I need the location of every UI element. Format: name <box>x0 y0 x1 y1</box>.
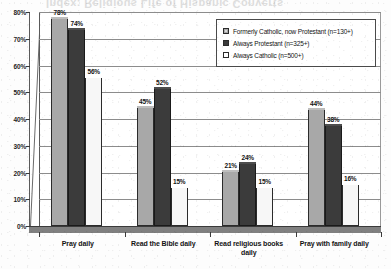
bar-value-label-1-1: 52% <box>156 79 168 86</box>
bar-1-1[interactable]: 52% <box>154 87 171 226</box>
bar-value-label-0-2: 56% <box>88 68 100 75</box>
bar-value-label-3-2: 16% <box>344 175 356 182</box>
legend-label-series-0: Formerly Catholic, now Protestant (n=130… <box>233 28 353 35</box>
y-axis-label-40: 40% <box>14 116 26 123</box>
legend-swatch-icon-series-2 <box>223 52 229 58</box>
bar-value-label-0-0: 78% <box>54 9 66 16</box>
y-tick-mark-80 <box>26 12 30 13</box>
legend-item-always-catholic: Always Catholic (n=500+) <box>223 49 369 61</box>
bar-group-0: 78%74%56% <box>39 12 125 226</box>
scan-showthrough-text: Index: Religious Life of Hispanic Conver… <box>46 0 366 10</box>
y-tick-mark-40 <box>26 119 30 120</box>
legend-label-series-1: Always Protestant (n=325+) <box>233 40 309 47</box>
y-axis-label-30: 30% <box>14 142 26 149</box>
x-tick-1 <box>125 232 126 237</box>
bar-top-cap <box>239 162 256 164</box>
bar-group-1: 45%52%15% <box>125 12 211 226</box>
bar-value-label-3-0: 44% <box>310 100 322 107</box>
legend-item-always-protestant: Always Protestant (n=325+) <box>223 37 369 49</box>
bar-top-cap <box>154 87 171 89</box>
y-axis-label-60: 60% <box>14 62 26 69</box>
x-tick-end <box>381 232 382 237</box>
legend-swatch-icon-series-1 <box>223 40 229 46</box>
bar-1-2[interactable]: 15% <box>171 186 188 226</box>
legend-swatch-icon-series-0 <box>223 28 229 34</box>
bar-value-label-1-0: 45% <box>139 98 151 105</box>
x-axis-category-2: Read religious books daily <box>208 240 290 257</box>
y-axis-label-50: 50% <box>14 89 26 96</box>
bar-0-1[interactable]: 74% <box>68 28 85 226</box>
bar-chart: Index: Religious Life of Hispanic Conver… <box>0 0 391 269</box>
bar-top-cap <box>222 170 239 172</box>
x-tick-3 <box>296 232 297 237</box>
bar-1-0[interactable]: 45% <box>137 106 154 226</box>
bar-3-1[interactable]: 38% <box>325 124 342 226</box>
bar-3-2[interactable]: 16% <box>342 183 359 226</box>
bar-value-label-0-1: 74% <box>71 20 83 27</box>
bar-top-cap <box>308 108 325 110</box>
y-tick-mark-50 <box>26 92 30 93</box>
y-tick-mark-60 <box>26 66 30 67</box>
bar-3-0[interactable]: 44% <box>308 108 325 226</box>
y-axis-label-70: 70% <box>14 35 26 42</box>
legend-label-series-2: Always Catholic (n=500+) <box>233 52 303 59</box>
bar-0-2[interactable]: 56% <box>85 76 102 226</box>
x-tick-2 <box>210 232 211 237</box>
y-tick-mark-70 <box>26 39 30 40</box>
x-axis-category-0: Pray daily <box>37 240 119 249</box>
bar-top-cap <box>256 186 273 188</box>
bar-value-label-3-1: 38% <box>327 116 339 123</box>
bar-top-cap <box>85 76 102 78</box>
x-axis-category-3: Pray with family daily <box>294 240 376 249</box>
bar-0-0[interactable]: 78% <box>51 17 68 226</box>
y-axis-label-20: 20% <box>14 169 26 176</box>
y-tick-mark-30 <box>26 146 30 147</box>
axis-floor-band <box>29 226 381 233</box>
bar-value-label-1-2: 15% <box>173 178 185 185</box>
bar-2-0[interactable]: 21% <box>222 170 239 226</box>
y-axis-label-10: 10% <box>14 196 26 203</box>
bar-top-cap <box>137 106 154 108</box>
y-tick-mark-10 <box>26 199 30 200</box>
y-axis-label-0: 0% <box>17 223 26 230</box>
x-axis-category-1: Read the Bible daily <box>123 240 205 249</box>
bar-top-cap <box>68 28 85 30</box>
bar-value-label-2-1: 24% <box>242 154 254 161</box>
y-axis-label-80: 80% <box>14 9 26 16</box>
bar-top-cap <box>325 124 342 126</box>
bar-value-label-2-2: 15% <box>259 178 271 185</box>
bar-top-cap <box>342 183 359 185</box>
legend-item-formerly-catholic: Formerly Catholic, now Protestant (n=130… <box>223 25 369 37</box>
bar-top-cap <box>171 186 188 188</box>
bar-top-cap <box>51 17 68 19</box>
bar-value-label-2-0: 21% <box>225 162 237 169</box>
chart-legend: Formerly Catholic, now Protestant (n=130… <box>216 19 376 67</box>
y-tick-mark-20 <box>26 173 30 174</box>
x-tick-0 <box>39 232 40 237</box>
bar-2-2[interactable]: 15% <box>256 186 273 226</box>
bar-2-1[interactable]: 24% <box>239 162 256 226</box>
x-axis: Pray dailyRead the Bible dailyRead relig… <box>29 238 381 269</box>
